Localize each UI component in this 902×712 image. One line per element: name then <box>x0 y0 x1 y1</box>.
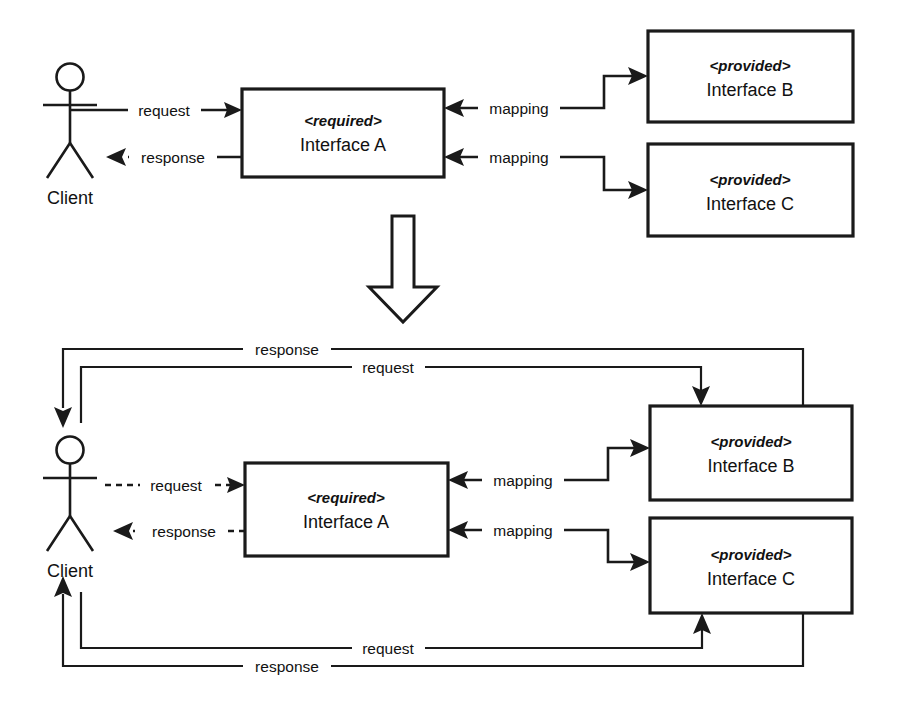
bottom-edge-direct-request-c-label: request <box>362 640 414 657</box>
bottom-edge-direct-response-b-line <box>63 349 803 408</box>
top-actor-label: Client <box>47 188 93 208</box>
diagram-canvas: Client <required> Interface A <provided>… <box>0 0 902 712</box>
bottom-edge-client-request-label: request <box>150 477 202 494</box>
bottom-box-interface-a[interactable]: <required> Interface A <box>245 463 448 556</box>
bottom-box-interface-a-name: Interface A <box>303 512 389 532</box>
stick-figure-actor-icon-legs <box>47 516 93 551</box>
top-edge-client-request[interactable]: request <box>70 100 242 119</box>
bottom-box-interface-b[interactable]: <provided> Interface B <box>650 406 852 500</box>
bottom-box-interface-c-name: Interface C <box>707 569 795 589</box>
bottom-edge-direct-response-b-label: response <box>255 341 319 358</box>
bottom-box-interface-a-rect <box>245 463 448 556</box>
top-edge-client-response-arrowhead <box>106 148 126 166</box>
bottom-edge-mapping-b[interactable]: mapping <box>448 439 650 489</box>
bottom-edge-client-response-label: response <box>152 523 216 540</box>
top-edge-client-response-label: response <box>141 149 205 166</box>
stick-figure-actor-icon-head <box>57 64 84 91</box>
bottom-edge-direct-request-b[interactable]: request <box>81 358 710 423</box>
bottom-panel: Client <required> Interface A <provided>… <box>43 340 852 676</box>
transform-block-arrow <box>369 216 437 322</box>
top-box-interface-c-rect <box>648 144 853 236</box>
bottom-edge-mapping-c[interactable]: mapping <box>448 520 650 571</box>
bottom-box-interface-a-stereotype: <required> <box>307 489 385 506</box>
top-edge-mapping-b[interactable]: mapping <box>444 67 648 117</box>
bottom-edge-client-request[interactable]: request <box>105 475 245 494</box>
bottom-edge-direct-response-b-arrowhead <box>54 407 72 428</box>
bottom-edge-direct-request-b-label: request <box>362 359 414 376</box>
bottom-box-interface-b-stereotype: <provided> <box>711 433 792 450</box>
uml-interface-mapping-diagram: Client <required> Interface A <provided>… <box>0 0 902 712</box>
top-panel: Client <required> Interface A <provided>… <box>43 31 853 236</box>
top-box-interface-b[interactable]: <provided> Interface B <box>648 31 853 122</box>
block-arrow-down-icon <box>369 216 437 322</box>
top-actor-client[interactable]: Client <box>43 64 97 209</box>
top-edge-client-response[interactable]: response <box>106 147 242 166</box>
top-box-interface-c[interactable]: <provided> Interface C <box>648 144 853 236</box>
bottom-box-interface-c-stereotype: <provided> <box>711 546 792 563</box>
top-box-interface-a-rect <box>242 89 444 177</box>
top-box-interface-b-name: Interface B <box>706 80 793 100</box>
top-box-interface-b-rect <box>648 31 853 122</box>
top-edge-mapping-c[interactable]: mapping <box>444 147 648 199</box>
top-box-interface-b-stereotype: <provided> <box>710 57 791 74</box>
bottom-edge-direct-request-c[interactable]: request <box>81 592 711 658</box>
bottom-edge-mapping-c-label: mapping <box>493 522 552 539</box>
bottom-box-interface-c[interactable]: <provided> Interface C <box>650 518 852 613</box>
bottom-edge-direct-response-c-label: response <box>255 658 319 675</box>
top-box-interface-a-stereotype: <required> <box>304 112 382 129</box>
top-box-interface-c-name: Interface C <box>706 194 794 214</box>
bottom-edge-client-response-arrowhead <box>113 522 133 540</box>
bottom-box-interface-b-rect <box>650 406 852 500</box>
bottom-box-interface-b-name: Interface B <box>707 456 794 476</box>
top-box-interface-a[interactable]: <required> Interface A <box>242 89 444 177</box>
bottom-actor-client[interactable]: Client <box>43 437 97 582</box>
stick-figure-actor-icon-legs <box>47 143 93 178</box>
bottom-edge-mapping-b-label: mapping <box>493 472 552 489</box>
stick-figure-actor-icon-head <box>57 437 84 464</box>
bottom-edge-client-response[interactable]: response <box>113 521 245 540</box>
top-edge-client-request-label: request <box>138 102 190 119</box>
bottom-box-interface-c-rect <box>650 518 852 613</box>
top-edge-mapping-b-label: mapping <box>489 100 548 117</box>
top-box-interface-c-stereotype: <provided> <box>710 171 791 188</box>
bottom-actor-label: Client <box>47 561 93 581</box>
top-edge-mapping-c-label: mapping <box>489 149 548 166</box>
top-box-interface-a-name: Interface A <box>300 135 386 155</box>
